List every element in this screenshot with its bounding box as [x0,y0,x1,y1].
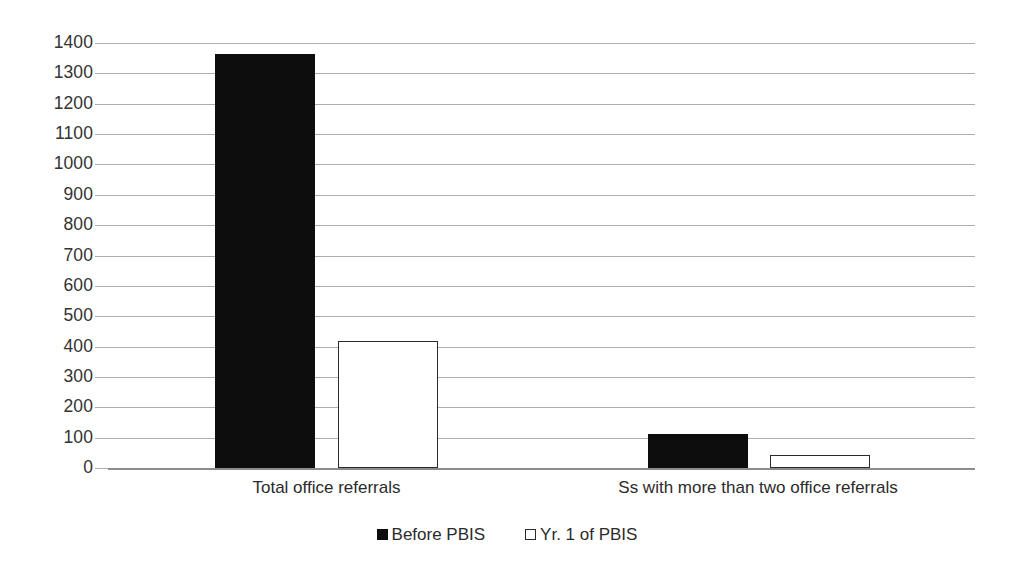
y-axis-tick-mark [95,134,108,135]
y-axis-tick-label: 100 [13,429,93,447]
bar [648,434,748,468]
legend-label: Yr. 1 of PBIS [540,526,637,543]
y-axis-tick-mark [95,347,108,348]
y-axis-tick-label: 1000 [13,155,93,173]
bar-chart: 0100200300400500600700800900100011001200… [0,0,1014,568]
y-axis-tick-label: 200 [13,398,93,416]
y-axis-tick-mark [95,468,108,469]
y-axis-tick-mark [95,377,108,378]
y-axis-tick-mark [95,438,108,439]
y-axis-tick-label: 400 [13,338,93,356]
y-axis-tick-mark [95,73,108,74]
y-axis-tick-label: 800 [13,216,93,234]
y-axis-tick-label: 1200 [13,95,93,113]
legend-swatch-icon [377,529,388,540]
y-axis-tick-label: 700 [13,247,93,265]
y-axis-tick-label: 500 [13,307,93,325]
y-axis-tick-mark [95,195,108,196]
axis-baseline [108,468,975,470]
y-axis-tick-mark [95,43,108,44]
y-axis-tick-label: 0 [13,459,93,477]
y-axis-tick-label: 1400 [13,34,93,52]
bar [338,341,438,469]
y-axis-tick-mark [95,256,108,257]
y-axis-tick-label: 1300 [13,64,93,82]
legend-item: Yr. 1 of PBIS [525,526,637,543]
chart-legend: Before PBISYr. 1 of PBIS [0,519,1014,549]
bar [770,455,870,468]
y-axis-tick-label: 1100 [13,125,93,143]
y-axis-tick-label: 900 [13,186,93,204]
y-axis-tick-label: 300 [13,368,93,386]
gridline [108,43,975,44]
y-axis-tick-mark [95,225,108,226]
y-axis-tick-mark [95,164,108,165]
legend-label: Before PBIS [392,526,486,543]
y-axis-tick-mark [95,286,108,287]
y-axis-tick-mark [95,104,108,105]
bar [215,54,315,468]
x-axis-category-label: Ss with more than two office referrals [251,478,1014,498]
legend-swatch-icon [525,529,536,540]
y-axis-tick-mark [95,407,108,408]
y-axis-tick-mark [95,316,108,317]
y-axis-tick-label: 600 [13,277,93,295]
legend-item: Before PBIS [377,526,486,543]
plot-area [108,43,975,468]
